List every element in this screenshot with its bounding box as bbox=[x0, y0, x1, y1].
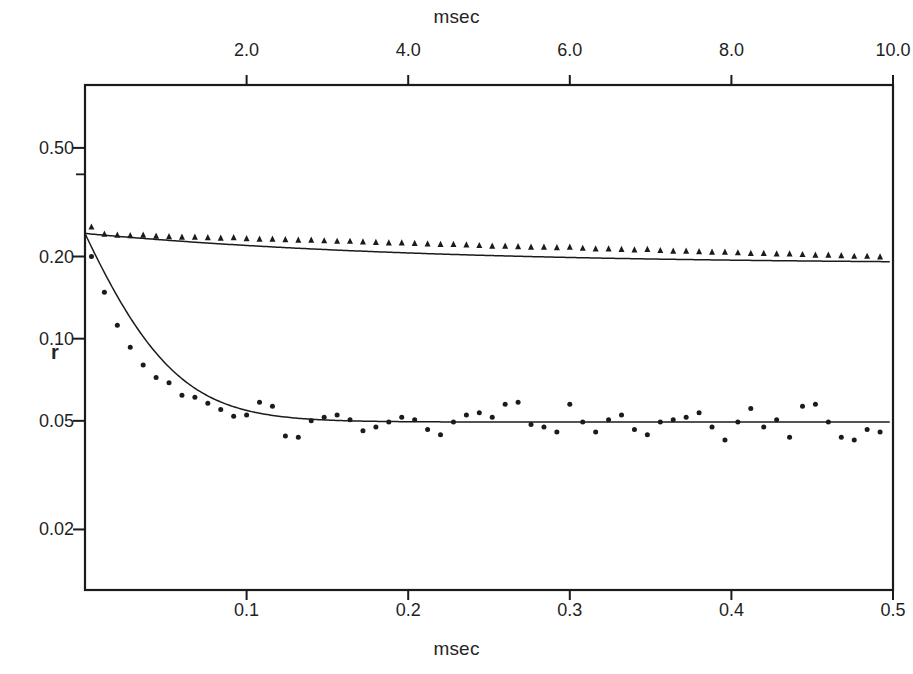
bottom-tick-label: 0.3 bbox=[557, 600, 582, 621]
y-tick-label: 0.50 bbox=[0, 137, 74, 158]
top-tick-label: 10.0 bbox=[875, 40, 910, 61]
bottom-tick-label: 0.2 bbox=[396, 600, 421, 621]
bottom-tick-label: 0.5 bbox=[880, 600, 905, 621]
figure-panel: msec msec r 2.04.06.08.010.00.10.20.30.4… bbox=[0, 0, 913, 674]
y-tick-label: 0.10 bbox=[0, 328, 74, 349]
top-tick-label: 8.0 bbox=[719, 40, 744, 61]
top-axis-title: msec bbox=[0, 6, 913, 28]
y-tick-label: 0.05 bbox=[0, 410, 74, 431]
y-tick-label: 0.20 bbox=[0, 246, 74, 267]
bottom-axis-title: msec bbox=[0, 638, 913, 660]
bottom-tick-label: 0.1 bbox=[234, 600, 259, 621]
data-points bbox=[88, 223, 883, 442]
plot-canvas bbox=[0, 0, 913, 674]
bottom-tick-label: 0.4 bbox=[719, 600, 744, 621]
fit-curves bbox=[85, 233, 890, 422]
axes-frame bbox=[85, 85, 893, 590]
top-tick-label: 6.0 bbox=[557, 40, 582, 61]
axis-ticks bbox=[73, 75, 893, 600]
top-tick-label: 4.0 bbox=[396, 40, 421, 61]
y-tick-label: 0.02 bbox=[0, 519, 74, 540]
top-tick-label: 2.0 bbox=[234, 40, 259, 61]
